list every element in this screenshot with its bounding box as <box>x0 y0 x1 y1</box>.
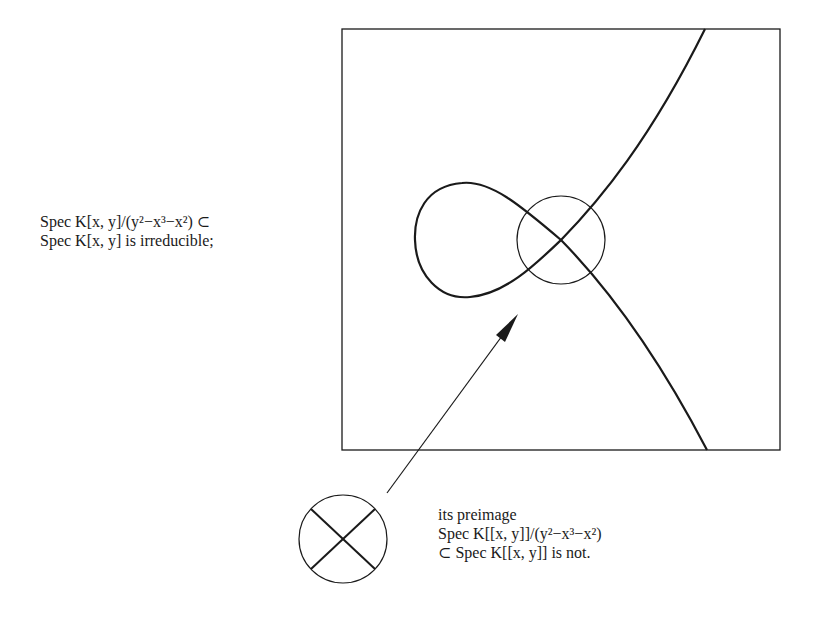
left-caption-line2: Spec K[x, y] is irreducible; <box>40 231 214 250</box>
arrow-shaft <box>387 325 510 493</box>
right-caption: its preimage Spec K[[x, y]]/(y²−x³−x²) ⊂… <box>438 505 602 562</box>
nodal-cubic-figure <box>0 0 823 623</box>
right-caption-line1: its preimage <box>438 505 602 524</box>
left-caption: Spec K[x, y]/(y²−x³−x²) ⊂ Spec K[x, y] i… <box>40 212 214 250</box>
curve-loop <box>415 183 561 297</box>
right-caption-line2: Spec K[[x, y]]/(y²−x³−x²) <box>438 524 602 543</box>
left-caption-line1: Spec K[x, y]/(y²−x³−x²) ⊂ <box>40 212 214 231</box>
arrowhead-icon <box>496 314 518 342</box>
curve-branch-lower <box>561 240 707 450</box>
right-caption-line3: ⊂ Spec K[[x, y]] is not. <box>438 543 602 562</box>
curve-branch-upper <box>561 29 705 240</box>
